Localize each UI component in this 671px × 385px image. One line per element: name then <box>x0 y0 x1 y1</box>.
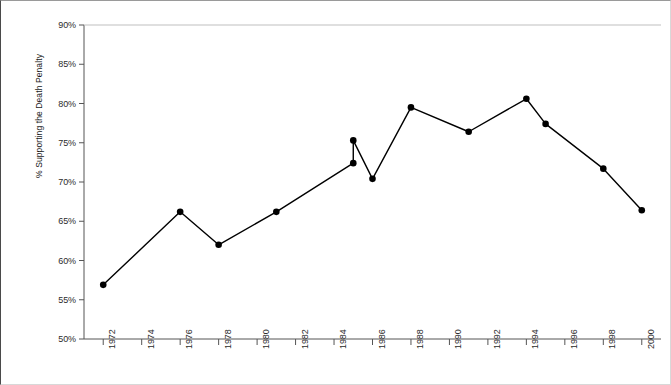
data-point <box>350 160 357 167</box>
data-point <box>215 242 222 249</box>
data-point <box>600 165 607 172</box>
data-point <box>523 95 530 102</box>
data-point <box>638 207 645 214</box>
data-point <box>465 128 472 135</box>
data-point <box>100 282 107 289</box>
line-chart-svg <box>1 1 671 385</box>
chart-frame: % Supporting the Death Penalty 50%55%60%… <box>0 0 671 385</box>
data-point <box>542 121 549 128</box>
data-point <box>350 137 357 144</box>
data-point <box>369 176 376 183</box>
data-line-series-1 <box>103 99 642 285</box>
x-tick-marks <box>103 339 642 345</box>
chart-plot-area: % Supporting the Death Penalty 50%55%60%… <box>1 1 671 385</box>
data-point <box>273 209 280 216</box>
data-point-markers <box>100 95 645 288</box>
y-tick-marks <box>79 25 84 339</box>
data-point <box>177 209 184 216</box>
data-point <box>408 104 415 111</box>
